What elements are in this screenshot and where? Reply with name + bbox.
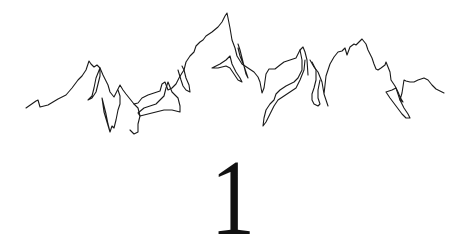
shadow-center-1 [263, 50, 305, 126]
shadow-center-2 [312, 62, 320, 106]
ridgeline-main [26, 13, 308, 108]
shadow-left-2 [102, 90, 120, 132]
mountain-range-illustration [0, 0, 466, 150]
shadow-left-3 [130, 104, 140, 134]
mountain-icon [0, 0, 466, 150]
shadow-mid-1 [138, 82, 180, 116]
shadow-left-1 [88, 68, 100, 100]
shadow-peak-1 [212, 56, 242, 82]
shadow-right-1 [386, 88, 410, 118]
numeral-one: 1 [42, 148, 424, 248]
shadow-mid-2 [178, 66, 190, 92]
ridgeline-right [310, 39, 444, 106]
